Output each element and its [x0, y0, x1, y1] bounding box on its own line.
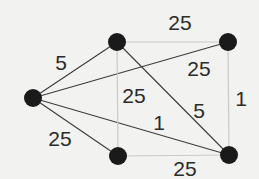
graph-node-bottom-middle[interactable]: [109, 147, 127, 165]
edge-topmiddle-bottomright-weight-label: 5: [193, 100, 205, 121]
graph-node-top-right[interactable]: [219, 33, 237, 51]
edge-left-topright-weight-label: 25: [187, 58, 210, 79]
edge-topmiddle-bottommiddle: [117, 42, 118, 156]
graph-node-bottom-right[interactable]: [220, 146, 238, 164]
edge-left-bottommiddle: [33, 98, 118, 156]
edge-left-bottommiddle-weight-label: 25: [48, 128, 71, 149]
edge-left-bottomright-weight-label: 1: [153, 112, 165, 133]
edge-bottommiddle-bottomright-weight-label: 25: [173, 158, 196, 179]
edge-topmiddle-bottommiddle-weight-label: 25: [122, 85, 145, 106]
weighted-graph-diagram: 52512552525125: [0, 0, 259, 179]
edge-topright-bottomright-weight-label: 1: [235, 88, 247, 109]
edge-left-topmiddle: [33, 42, 117, 98]
edge-left-topmiddle-weight-label: 5: [55, 52, 67, 73]
edge-topmiddle-topright-weight-label: 25: [168, 12, 191, 33]
graph-node-top-middle[interactable]: [108, 33, 126, 51]
graph-node-left[interactable]: [24, 89, 42, 107]
edge-topright-bottomright: [228, 42, 229, 155]
